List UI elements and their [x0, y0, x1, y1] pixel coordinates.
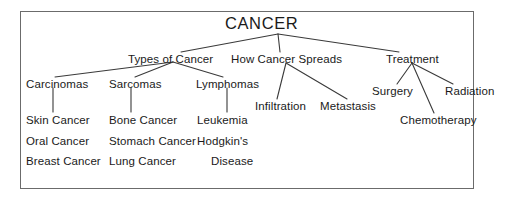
leaf-skin-cancer: Skin Cancer	[26, 114, 90, 126]
edge-root-to-spreads	[278, 34, 280, 52]
leaf-lung-cancer: Lung Cancer	[109, 155, 176, 167]
edge-spreads-to-metastasis	[286, 63, 347, 99]
edge-root-to-types	[181, 34, 278, 52]
node-chemotherapy: Chemotherapy	[400, 114, 477, 126]
edge-treatment-to-radiation	[412, 63, 453, 84]
leaf-hodgkins: Hodgkin's	[197, 135, 248, 147]
node-metastasis: Metastasis	[320, 100, 376, 112]
leaf-bone-cancer: Bone Cancer	[109, 114, 177, 126]
node-types-of-cancer: Types of Cancer	[128, 53, 213, 65]
edge-treatment-to-surgery	[397, 63, 412, 84]
edge-root-to-treatment	[278, 34, 399, 52]
node-infiltration: Infiltration	[255, 100, 306, 112]
diagram-canvas: CANCER Types of Cancer How Cancer Spread…	[0, 0, 507, 202]
node-carcinomas: Carcinomas	[26, 78, 88, 90]
node-surgery: Surgery	[372, 85, 413, 97]
leaf-stomach-cancer: Stomach Cancer	[109, 135, 196, 147]
node-cancer-root: CANCER	[225, 14, 298, 33]
node-lymphomas: Lymphomas	[196, 78, 259, 90]
node-treatment: Treatment	[386, 53, 439, 65]
node-radiation: Radiation	[445, 85, 495, 97]
leaf-breast-cancer: Breast Cancer	[26, 155, 101, 167]
leaf-leukemia: Leukemia	[197, 114, 248, 126]
leaf-disease: Disease	[211, 155, 253, 167]
edge-treatment-to-chemotherapy	[412, 63, 434, 113]
edge-spreads-to-infiltration	[277, 63, 286, 99]
node-sarcomas: Sarcomas	[109, 78, 162, 90]
leaf-oral-cancer: Oral Cancer	[26, 135, 89, 147]
node-how-cancer-spreads: How Cancer Spreads	[231, 53, 342, 65]
